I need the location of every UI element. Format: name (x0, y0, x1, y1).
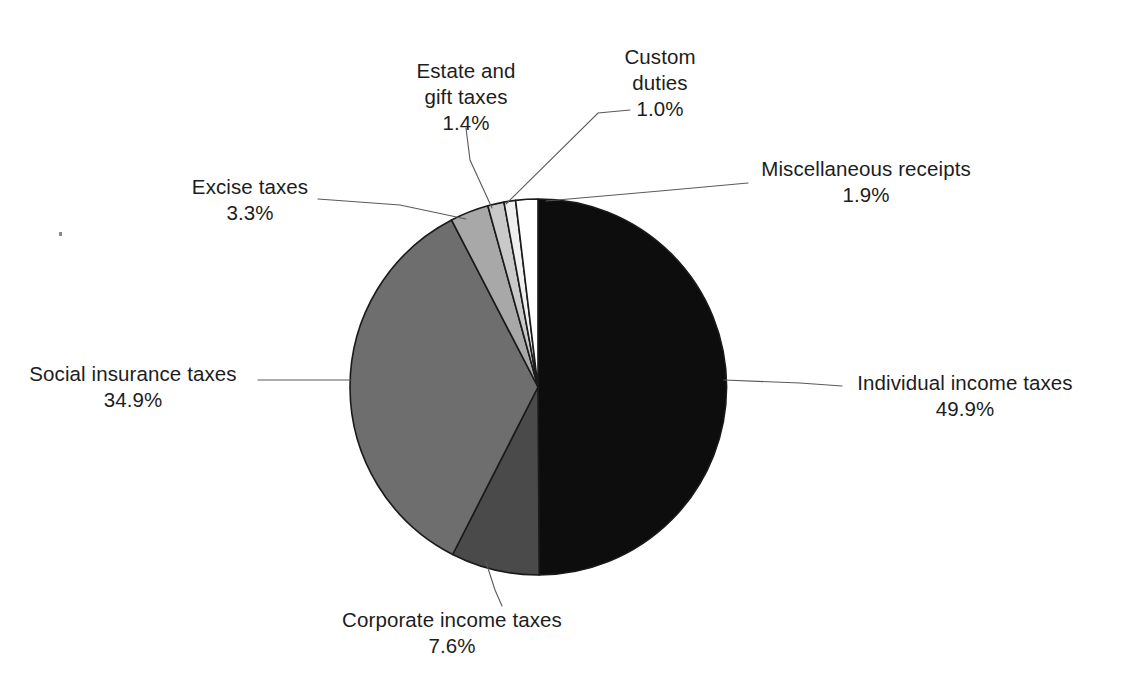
label-excise-taxes-name: Excise taxes (192, 175, 308, 198)
leader-line-estate-and-gift-taxes (466, 128, 492, 208)
pie-slice-group (350, 199, 727, 575)
label-custom-duties-line1: Custom (624, 45, 695, 68)
label-social-insurance-taxes-name: Social insurance taxes (29, 362, 236, 385)
label-estate-and-gift-taxes-value: 1.4% (442, 111, 489, 134)
label-custom-duties-value: 1.0% (636, 97, 683, 120)
label-excise-taxes-value: 3.3% (226, 201, 273, 224)
label-estate-and-gift-taxes-line2: gift taxes (424, 85, 507, 108)
label-corporate-income-taxes-value: 7.6% (428, 634, 475, 657)
label-individual-income-taxes-value: 49.9% (936, 397, 995, 420)
label-miscellaneous-receipts-name: Miscellaneous receipts (761, 157, 971, 180)
pie-chart-svg: Estate and gift taxes 1.4% Custom duties… (0, 0, 1131, 689)
label-custom-duties-line2: duties (632, 71, 687, 94)
label-estate-and-gift-taxes-line1: Estate and (416, 59, 515, 82)
leader-line-excise-taxes (318, 199, 466, 219)
label-miscellaneous-receipts-value: 1.9% (842, 183, 889, 206)
leader-line-custom-duties (506, 110, 630, 204)
leader-line-miscellaneous-receipts (546, 183, 748, 201)
label-corporate-income-taxes-name: Corporate income taxes (342, 608, 562, 631)
pie-chart-figure: Estate and gift taxes 1.4% Custom duties… (0, 0, 1131, 689)
leader-line-individual-income-taxes (724, 380, 842, 386)
label-social-insurance-taxes-value: 34.9% (104, 388, 163, 411)
label-individual-income-taxes-name: Individual income taxes (857, 371, 1072, 394)
scan-speck (59, 232, 62, 236)
pie-slice-individual-income-taxes (538, 199, 727, 575)
